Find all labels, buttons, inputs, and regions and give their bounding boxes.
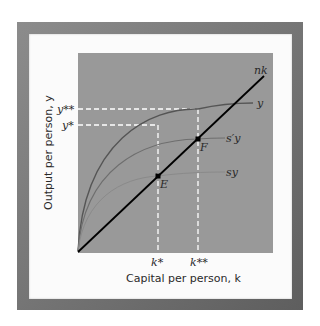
- plot-area: [78, 53, 273, 253]
- y-star-tick: y*: [61, 119, 74, 132]
- k-star-star-tick: k**: [190, 256, 208, 269]
- point-f-label: F: [199, 141, 208, 154]
- x-axis-title: Capital per person, k: [126, 272, 242, 285]
- nk-label: nk: [254, 64, 268, 77]
- point-e-label: E: [159, 178, 168, 191]
- k-star-tick: k*: [151, 256, 164, 269]
- y-star-star-tick: y**: [56, 103, 75, 116]
- steady-state-chart: nk y s′y sy E F y** y* k* k** Capital pe…: [0, 0, 320, 326]
- y-axis-title: Output per person, y: [42, 95, 55, 210]
- sy-label: sy: [226, 166, 239, 179]
- s-prime-y-label: s′y: [226, 132, 241, 145]
- y-curve-label: y: [256, 97, 264, 110]
